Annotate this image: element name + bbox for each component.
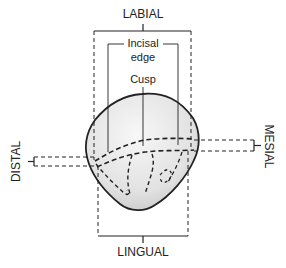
incisal-edge-label-line2: edge — [123, 51, 163, 64]
tooth-orientation-diagram: LABIAL Incisal edge Cusp LINGUAL DISTAL … — [0, 0, 286, 268]
cusp-label: Cusp — [123, 73, 163, 86]
incisal-edge-label-line1: Incisal — [123, 37, 163, 50]
distal-label: DISTAL — [10, 137, 23, 187]
labial-label: LABIAL — [118, 8, 168, 21]
lingual-label: LINGUAL — [113, 246, 173, 259]
mesial-label: MESIAL — [262, 122, 275, 172]
